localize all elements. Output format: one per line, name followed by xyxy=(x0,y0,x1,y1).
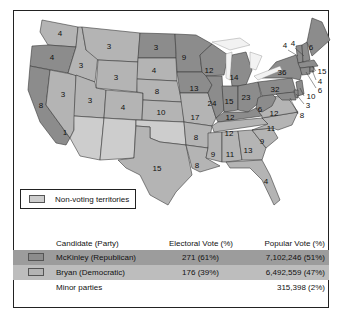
table-header: Candidate (Party) Electoral Vote (%) Pop… xyxy=(13,236,329,250)
svg-text:4: 4 xyxy=(152,66,157,75)
svg-text:1: 1 xyxy=(63,128,68,137)
republican-swatch xyxy=(28,253,44,261)
electoral-vote: 176 (39%) xyxy=(182,268,219,277)
territory-arizona[interactable] xyxy=(70,116,104,160)
popular-vote: 315,398 (2%) xyxy=(277,283,325,292)
svg-text:6: 6 xyxy=(318,86,323,95)
svg-text:4: 4 xyxy=(291,39,296,48)
svg-text:10: 10 xyxy=(157,108,166,117)
svg-text:24: 24 xyxy=(208,99,217,108)
svg-text:3: 3 xyxy=(154,43,159,52)
svg-text:6: 6 xyxy=(309,43,314,52)
svg-text:11: 11 xyxy=(267,124,276,133)
header-popular: Popular Vote (%) xyxy=(265,239,325,248)
header-electoral: Electoral Vote (%) xyxy=(169,239,233,248)
lake-huron xyxy=(250,52,262,70)
svg-text:9: 9 xyxy=(211,150,216,159)
table-row-mckinley: McKinley (Republican) 271 (61%) 7,102,24… xyxy=(13,250,329,265)
svg-text:14: 14 xyxy=(230,73,239,82)
democratic-swatch xyxy=(28,268,44,276)
svg-text:13: 13 xyxy=(244,146,253,155)
results-table: Candidate (Party) Electoral Vote (%) Pop… xyxy=(13,236,329,295)
svg-text:11: 11 xyxy=(226,150,235,159)
svg-text:12: 12 xyxy=(226,113,235,122)
svg-text:17: 17 xyxy=(191,113,200,122)
svg-text:8: 8 xyxy=(39,101,44,110)
svg-text:4: 4 xyxy=(121,103,126,112)
state-south-dakota[interactable] xyxy=(137,58,177,81)
svg-text:15: 15 xyxy=(318,67,327,76)
state-connecticut[interactable] xyxy=(300,67,310,75)
table-row-minor: Minor parties 315,398 (2%) xyxy=(13,280,329,295)
svg-text:3: 3 xyxy=(107,42,112,51)
popular-vote: 7,102,246 (51%) xyxy=(266,253,325,262)
header-candidate: Candidate (Party) xyxy=(56,239,119,248)
svg-text:15: 15 xyxy=(225,97,234,106)
svg-text:9: 9 xyxy=(260,137,265,146)
svg-text:23: 23 xyxy=(242,93,251,102)
svg-text:4: 4 xyxy=(50,53,55,62)
svg-text:6: 6 xyxy=(258,105,263,114)
table-row-bryan: Bryan (Democratic) 176 (39%) 6,492,559 (… xyxy=(13,265,329,280)
svg-text:4: 4 xyxy=(264,177,269,186)
svg-text:10: 10 xyxy=(307,92,316,101)
svg-text:3: 3 xyxy=(88,96,93,105)
state-florida[interactable] xyxy=(226,160,280,205)
svg-text:4: 4 xyxy=(318,77,323,86)
popular-vote: 6,492,559 (47%) xyxy=(266,268,325,277)
territory-new-mexico[interactable] xyxy=(100,118,136,160)
svg-text:12: 12 xyxy=(270,109,279,118)
svg-text:32: 32 xyxy=(271,85,280,94)
svg-text:13: 13 xyxy=(190,84,199,93)
electoral-vote: 271 (61%) xyxy=(182,253,219,262)
state-nebraska[interactable] xyxy=(137,79,182,102)
svg-text:4: 4 xyxy=(283,41,288,50)
svg-text:3: 3 xyxy=(61,90,66,99)
candidate-name: Minor parties xyxy=(56,283,102,292)
territories-label: Non-voting territories xyxy=(55,195,129,204)
candidate-name: Bryan (Democratic) xyxy=(56,268,125,277)
svg-text:3: 3 xyxy=(306,101,311,110)
svg-text:9: 9 xyxy=(182,53,187,62)
svg-text:12: 12 xyxy=(225,129,234,138)
svg-text:15: 15 xyxy=(153,164,162,173)
svg-text:8: 8 xyxy=(300,111,305,120)
svg-text:8: 8 xyxy=(195,161,200,170)
svg-text:12: 12 xyxy=(205,66,214,75)
svg-text:4: 4 xyxy=(58,29,63,38)
candidate-name: McKinley (Republican) xyxy=(56,253,136,262)
svg-text:3: 3 xyxy=(114,73,119,82)
svg-text:3: 3 xyxy=(79,61,84,70)
territory-swatch xyxy=(29,195,45,203)
territories-legend: Non-voting territories xyxy=(20,189,136,209)
svg-text:36: 36 xyxy=(278,68,287,77)
svg-text:8: 8 xyxy=(155,87,160,96)
svg-text:8: 8 xyxy=(194,133,199,142)
